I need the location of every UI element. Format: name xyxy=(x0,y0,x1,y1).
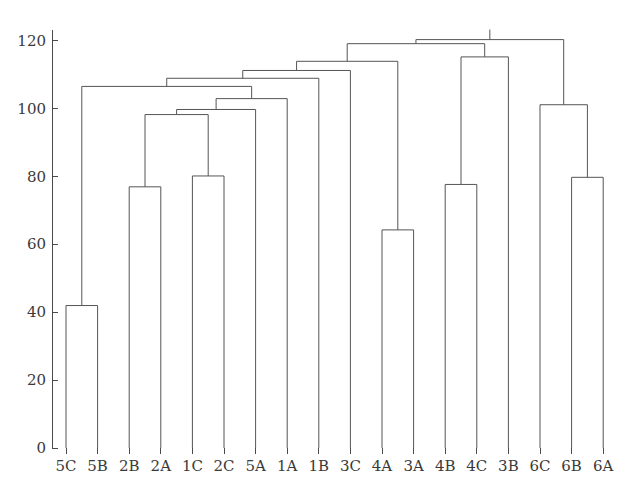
leaf-label: 4A xyxy=(372,457,393,475)
dendrogram-link xyxy=(66,306,98,448)
dendrogram-link xyxy=(347,44,485,62)
leaf-label: 2C xyxy=(213,457,234,475)
dendrogram-link xyxy=(572,177,604,448)
y-tick-label: 100 xyxy=(17,100,46,118)
dendrogram-link xyxy=(82,86,252,305)
dendrogram-link xyxy=(129,187,161,448)
y-axis: 020406080100120 xyxy=(17,30,58,457)
x-axis xyxy=(66,448,603,454)
leaf-label: 3C xyxy=(340,457,361,475)
leaf-label: 1C xyxy=(182,457,203,475)
dendrogram-link xyxy=(416,40,564,105)
leaf-label: 5A xyxy=(245,457,266,475)
dendrogram-link xyxy=(216,99,287,448)
y-tick-label: 40 xyxy=(27,303,46,321)
y-tick-label: 80 xyxy=(27,168,46,186)
leaf-label: 3B xyxy=(498,457,519,475)
dendrogram-figure: 020406080100120 5C5B2B2A1C2C5A1A1B3C4A3A… xyxy=(0,0,631,490)
leaf-label: 5C xyxy=(55,457,76,475)
leaf-label: 2A xyxy=(151,457,172,475)
dendrogram-link xyxy=(167,78,319,448)
leaf-label: 1A xyxy=(277,457,298,475)
y-tick-label: 120 xyxy=(17,32,46,50)
leaf-label: 1B xyxy=(309,457,330,475)
dendrogram-links xyxy=(66,30,603,448)
leaf-label: 6B xyxy=(561,457,582,475)
dendrogram-link xyxy=(382,230,414,448)
dendrogram-link xyxy=(177,109,256,448)
dendrogram-plot: 020406080100120 5C5B2B2A1C2C5A1A1B3C4A3A… xyxy=(0,0,631,490)
y-tick-label: 20 xyxy=(27,371,46,389)
leaf-label: 3A xyxy=(403,457,424,475)
dendrogram-link xyxy=(243,70,351,448)
leaf-label: 4B xyxy=(435,457,456,475)
leaf-labels: 5C5B2B2A1C2C5A1A1B3C4A3A4B4C3B6C6B6A xyxy=(55,457,613,475)
leaf-label: 5B xyxy=(87,457,108,475)
y-tick-label: 60 xyxy=(27,235,46,253)
leaf-label: 6A xyxy=(593,457,614,475)
dendrogram-link xyxy=(297,61,398,230)
leaf-label: 6C xyxy=(529,457,550,475)
y-tick-label: 0 xyxy=(36,439,46,457)
leaf-label: 2B xyxy=(119,457,140,475)
dendrogram-link xyxy=(461,57,508,448)
dendrogram-link xyxy=(192,176,224,448)
dendrogram-link xyxy=(445,184,477,448)
dendrogram-link xyxy=(540,105,587,448)
leaf-label: 4C xyxy=(466,457,487,475)
